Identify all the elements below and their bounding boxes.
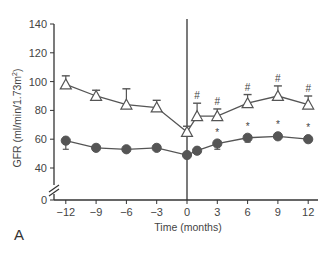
circle-marker xyxy=(92,143,101,152)
hash-significance-marker: # xyxy=(305,83,311,94)
triangle-marker xyxy=(272,91,283,101)
triangle-marker xyxy=(182,127,193,137)
asterisk-significance-marker: * xyxy=(276,119,280,130)
y-tick-label: 140 xyxy=(29,18,47,30)
circle-marker xyxy=(182,150,191,159)
hash-significance-marker: # xyxy=(245,82,251,93)
triangle-marker xyxy=(91,91,102,101)
circle-marker xyxy=(304,135,313,144)
x-tick-label: 3 xyxy=(214,206,220,218)
circle-marker xyxy=(213,139,222,148)
x-tick-label: 6 xyxy=(245,206,251,218)
circle-marker xyxy=(193,146,202,155)
axes: 0406080100120140−12−9−6−3036912 xyxy=(29,18,318,218)
y-axis-title: GFR (ml/min/1.73m2) xyxy=(11,69,23,168)
gfr-chart: 0406080100120140−12−9−6−3036912 #####***… xyxy=(0,0,334,253)
y-tick-label: 40 xyxy=(35,162,47,174)
circle-marker xyxy=(152,143,161,152)
triangle-marker xyxy=(60,79,71,89)
x-tick-label: 9 xyxy=(275,206,281,218)
asterisk-significance-marker: * xyxy=(246,121,250,132)
y-tick-label: 80 xyxy=(35,104,47,116)
x-tick-label: 0 xyxy=(184,206,190,218)
panel-label: A xyxy=(14,226,24,243)
y-tick-label: 100 xyxy=(29,76,47,88)
y-tick-label: 120 xyxy=(29,47,47,59)
circle-marker xyxy=(61,136,70,145)
y-tick-label: 60 xyxy=(35,133,47,145)
x-axis-title: Time (months) xyxy=(154,221,221,233)
asterisk-significance-marker: * xyxy=(306,122,310,133)
asterisk-significance-marker: * xyxy=(215,127,219,138)
hash-significance-marker: # xyxy=(275,73,281,84)
hash-significance-marker: # xyxy=(194,90,200,101)
x-tick-label: −9 xyxy=(90,206,103,218)
x-tick-label: −6 xyxy=(120,206,133,218)
x-tick-label: −12 xyxy=(56,206,75,218)
axis-break-mark xyxy=(49,185,59,192)
hash-significance-marker: # xyxy=(215,96,221,107)
x-tick-label: 12 xyxy=(302,206,314,218)
circle-marker xyxy=(243,133,252,142)
circle-marker xyxy=(122,145,131,154)
circle-marker xyxy=(273,132,282,141)
y-tick-label: 0 xyxy=(41,194,47,206)
x-tick-label: −3 xyxy=(150,206,163,218)
